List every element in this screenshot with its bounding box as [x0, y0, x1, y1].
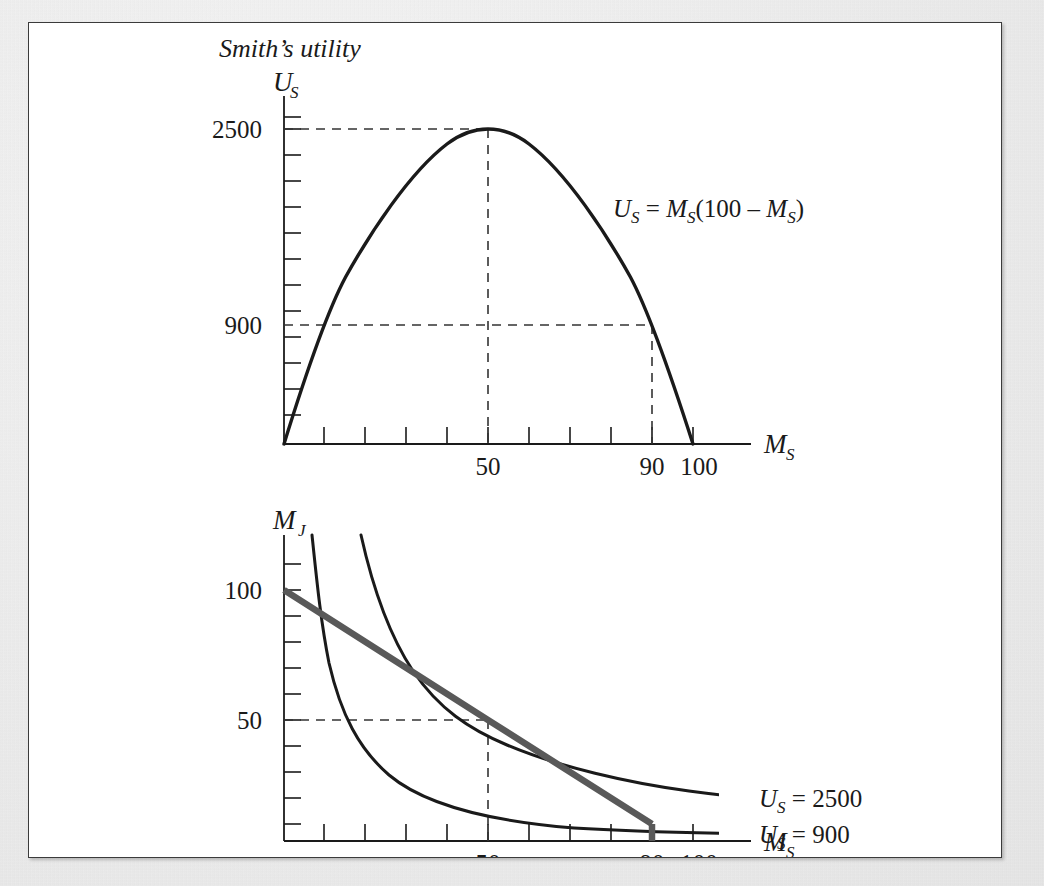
top-chart-x-axis-label: M S	[763, 429, 795, 464]
top-chart-y-ticks	[284, 117, 301, 415]
figure-root: Smith’s utility U S	[0, 0, 1044, 886]
top-chart-ytick-900: 900	[225, 312, 263, 339]
figure-svg: Smith’s utility U S	[29, 23, 1001, 857]
bottom-chart-guides	[284, 720, 488, 841]
bottom-chart-y-axis-label-sub: J	[298, 521, 307, 540]
top-chart-y-axis-label-sub: S	[290, 83, 299, 102]
budget-line	[284, 590, 652, 824]
bottom-chart-xtick-50: 50	[476, 850, 501, 857]
top-chart-parabola	[284, 129, 693, 444]
bottom-chart-ytick-50: 50	[237, 707, 262, 734]
top-chart: Smith’s utility U S	[212, 34, 804, 480]
top-chart-xtick-50: 50	[476, 453, 501, 480]
indifference-curve-2500	[361, 535, 751, 798]
bottom-chart-xtick-100: 100	[680, 850, 718, 857]
svg-text:US = MS(100 – MS): US = MS(100 – MS)	[613, 195, 804, 227]
figure-panel: Smith’s utility U S	[28, 22, 1002, 858]
top-chart-equation: US = MS(100 – MS)	[613, 195, 804, 227]
top-chart-y-axis-label: U S	[273, 67, 299, 102]
bottom-chart-ytick-100: 100	[225, 577, 263, 604]
bottom-chart-y-axis-label-main: M	[272, 505, 297, 535]
top-chart-x-axis-label-sub: S	[786, 445, 795, 464]
top-chart-xtick-90: 90	[640, 453, 665, 480]
top-chart-x-ticks	[324, 427, 693, 444]
curve-label-2500: US = 2500	[759, 785, 862, 817]
svg-text:US = 2500: US = 2500	[759, 785, 862, 817]
top-chart-x-axis-label-main: M	[763, 429, 788, 459]
top-chart-title: Smith’s utility	[219, 34, 361, 63]
top-chart-ytick-2500: 2500	[212, 116, 262, 143]
bottom-chart-xtick-90: 90	[640, 850, 665, 857]
bottom-chart: M J	[225, 505, 863, 857]
bottom-chart-y-axis-label: M J	[272, 505, 307, 540]
top-chart-xtick-100: 100	[680, 453, 718, 480]
